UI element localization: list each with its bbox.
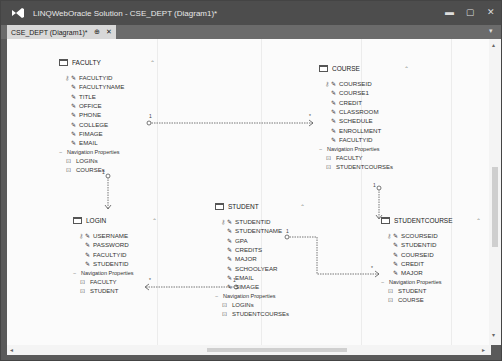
property-row[interactable]: ✎PHONE	[59, 110, 155, 119]
collapse-minus-icon[interactable]: −	[215, 293, 223, 299]
property-row[interactable]: ✎GPA	[215, 236, 305, 245]
close-button[interactable]: ✕	[487, 7, 495, 17]
scalar-property-icon: ✎	[331, 136, 339, 143]
navigation-properties-header[interactable]: −Navigation Properties	[215, 291, 305, 300]
entity-course[interactable]: COURSE ⌃ ⚷✎COURSEID ✎COURSE1 ✎CREDIT ✎CL…	[319, 63, 409, 171]
pin-icon[interactable]: ⊕	[94, 28, 100, 36]
property-row[interactable]: ✎CREDIT	[319, 98, 409, 107]
horizontal-scroll-thumb[interactable]	[207, 348, 347, 352]
navigation-property[interactable]: ⊡STUDENTCOURSEs	[215, 309, 305, 318]
navigation-property[interactable]: ⊡LOGINs	[59, 156, 155, 165]
app-window: LINQWebOracle Solution - CSE_DEPT (Diagr…	[0, 0, 502, 361]
property-row[interactable]: ✎SCHOOLYEAR	[215, 263, 305, 272]
multiplicity-label: *	[309, 113, 311, 119]
document-tab-bar: CSE_DEPT (Diagram1)* ⊕ ✕ ▾	[1, 25, 501, 39]
scalar-property-icon: ✎	[227, 237, 235, 244]
collapse-icon[interactable]: ⌃	[152, 217, 157, 224]
navigation-property[interactable]: ⊡FACULTY	[73, 277, 157, 286]
scalar-property-icon: ✎	[71, 83, 79, 90]
collapse-icon[interactable]: ⌃	[476, 217, 481, 224]
navigation-properties-header[interactable]: −Navigation Properties	[73, 268, 157, 277]
property-row[interactable]: ✎COURSE1	[319, 88, 409, 97]
collapse-icon[interactable]: ⌃	[150, 59, 155, 66]
property-row[interactable]: ✎FACULTYNAME	[59, 82, 155, 91]
property-row[interactable]: ✎STUDENTID	[73, 259, 157, 268]
property-row[interactable]: ✎STUDENTID	[381, 240, 481, 249]
property-row[interactable]: ✎SCHEDULE	[319, 116, 409, 125]
property-row[interactable]: ✎CREDIT	[381, 259, 481, 268]
horizontal-scrollbar[interactable]: ◂ ▸	[7, 345, 491, 355]
property-row[interactable]: ✎OFFICE	[59, 101, 155, 110]
entity-table-icon	[319, 65, 328, 72]
property-row[interactable]: ✎EMAIL	[215, 273, 305, 282]
scroll-left-icon[interactable]: ◂	[10, 346, 13, 353]
scalar-property-icon: ✎	[71, 139, 79, 146]
scroll-up-icon[interactable]: ▴	[492, 41, 495, 48]
collapse-minus-icon[interactable]: −	[319, 146, 327, 152]
entity-login[interactable]: LOGIN ⌃ ⚷✎USERNAME ✎PASSWORD ✎FACULTYID …	[73, 215, 157, 295]
tab-diagram1[interactable]: CSE_DEPT (Diagram1)* ⊕ ✕	[7, 25, 116, 39]
property-row[interactable]: ✎PASSWORD	[73, 240, 157, 249]
vertical-scrollbar[interactable]: ▴ ▾	[489, 39, 501, 345]
property-row[interactable]: ✎SIMAGE	[215, 282, 305, 291]
scalar-property-icon: ✎	[71, 74, 79, 81]
navigation-property[interactable]: ⊡COURSE	[381, 295, 481, 304]
property-row[interactable]: ⚷✎SCOURSEID	[381, 231, 481, 240]
property-row[interactable]: ✎FACULTYID	[319, 135, 409, 144]
navigation-property[interactable]: ⊡FACULTY	[319, 153, 409, 162]
window-title: LINQWebOracle Solution - CSE_DEPT (Diagr…	[33, 9, 217, 18]
scroll-down-icon[interactable]: ▾	[492, 331, 495, 338]
scalar-property-icon: ✎	[331, 108, 339, 115]
property-row[interactable]: ✎COLLEGE	[59, 119, 155, 128]
scalar-property-icon: ✎	[227, 265, 235, 272]
property-row[interactable]: ⚷✎COURSEID	[319, 79, 409, 88]
collapse-minus-icon[interactable]: −	[73, 270, 81, 276]
property-row[interactable]: ⚷✎USERNAME	[73, 231, 157, 240]
multiplicity-label: 1	[373, 182, 376, 188]
collapse-minus-icon[interactable]: −	[381, 279, 389, 285]
collapse-icon[interactable]: ⌃	[300, 203, 305, 210]
property-row[interactable]: ✎STUDENTNAME	[215, 226, 305, 235]
navigation-property[interactable]: ⊡STUDENT	[73, 286, 157, 295]
navigation-properties-header[interactable]: −Navigation Properties	[381, 277, 481, 286]
minimize-button[interactable]: ▬	[445, 7, 454, 17]
property-row[interactable]: ✎FIMAGE	[59, 129, 155, 138]
navigation-property[interactable]: ⊡LOGINs	[215, 300, 305, 309]
scalar-property-icon: ✎	[71, 102, 79, 109]
scalar-property-icon: ✎	[85, 260, 93, 267]
entity-name: STUDENTCOURSE	[394, 217, 453, 224]
tab-close-icon[interactable]: ✕	[106, 28, 112, 36]
property-row[interactable]: ⚷✎FACULTYID	[59, 73, 155, 82]
navigation-property-icon: ⊡	[66, 157, 76, 164]
entity-student[interactable]: STUDENT ⌃ ⚷✎STUDENTID ✎STUDENTNAME ✎GPA …	[215, 201, 305, 318]
scalar-property-icon: ✎	[331, 117, 339, 124]
maximize-button[interactable]: ▢	[466, 7, 475, 17]
vertical-scroll-thumb[interactable]	[492, 167, 498, 247]
scalar-property-icon: ✎	[393, 269, 401, 276]
entity-faculty[interactable]: FACULTY ⌃ ⚷✎FACULTYID ✎FACULTYNAME ✎TITL…	[59, 57, 155, 174]
navigation-property[interactable]: ⊡STUDENT	[381, 286, 481, 295]
property-row[interactable]: ✎COURSEID	[381, 250, 481, 259]
property-row[interactable]: ✎MAJOR	[215, 254, 305, 263]
property-row[interactable]: ✎ENROLLMENT	[319, 125, 409, 134]
property-row[interactable]: ✎TITLE	[59, 92, 155, 101]
scalar-property-icon: ✎	[71, 111, 79, 118]
diagram-canvas[interactable]: 1 * 1 1 1 * 1 * FACULTY ⌃ ⚷✎FACULTYID ✎F…	[7, 39, 491, 345]
property-row[interactable]: ✎CREDITS	[215, 245, 305, 254]
property-row[interactable]: ✎MAJOR	[381, 268, 481, 277]
collapse-icon[interactable]: ⌃	[404, 65, 409, 72]
navigation-property-icon: ⊡	[222, 301, 232, 308]
navigation-properties-header[interactable]: −Navigation Properties	[319, 144, 409, 153]
property-row[interactable]: ⚷✎STUDENTID	[215, 217, 305, 226]
entity-studentcourse[interactable]: STUDENTCOURSE ⌃ ⚷✎SCOURSEID ✎STUDENTID ✎…	[381, 215, 481, 304]
navigation-properties-header[interactable]: −Navigation Properties	[59, 147, 155, 156]
property-row[interactable]: ✎FACULTYID	[73, 250, 157, 259]
scalar-property-icon: ✎	[393, 251, 401, 258]
property-row[interactable]: ✎CLASSROOM	[319, 107, 409, 116]
tab-dropdown-icon[interactable]: ▾	[489, 27, 493, 35]
navigation-property[interactable]: ⊡STUDENTCOURSEs	[319, 162, 409, 171]
scroll-right-icon[interactable]: ▸	[482, 346, 485, 353]
collapse-minus-icon[interactable]: −	[59, 149, 67, 155]
property-row[interactable]: ✎EMAIL	[59, 138, 155, 147]
navigation-property[interactable]: ⊡COURSEs	[59, 165, 155, 174]
